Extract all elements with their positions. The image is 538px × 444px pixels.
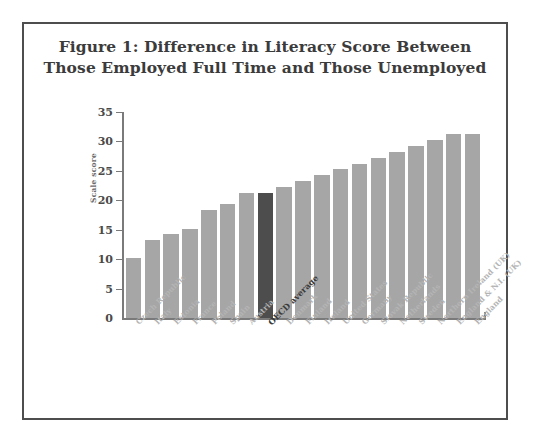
- figure-title-line-2: Those Employed Full Time and Those Unemp…: [24, 57, 506, 78]
- bar-czech-republic: [126, 258, 141, 318]
- figure-title: Figure 1: Difference in Literacy Score B…: [24, 36, 506, 78]
- figure-frame: Figure 1: Difference in Literacy Score B…: [22, 22, 508, 420]
- figure-title-line-1: Figure 1: Difference in Literacy Score B…: [24, 36, 506, 57]
- x-axis-category-labels: Czech RepublicItalyEstoniaFrancePolandSp…: [124, 320, 524, 420]
- bar-netherlands: [389, 152, 404, 318]
- y-tick-label: 35: [81, 106, 113, 118]
- y-tick-label: 25: [81, 165, 113, 177]
- bar-united-states: [333, 169, 348, 318]
- y-tick-label: 15: [81, 224, 113, 236]
- y-tick-label: 5: [81, 283, 113, 295]
- bar-england-n-i-uk: [446, 134, 461, 318]
- y-tick-label: 0: [81, 312, 113, 324]
- y-tick-label: 10: [81, 253, 113, 265]
- bar-austria: [239, 193, 254, 318]
- y-tick-label: 20: [81, 194, 113, 206]
- plot-area: Scale score 05101520253035 Czech Republi…: [81, 112, 491, 344]
- y-tick-label: 30: [81, 135, 113, 147]
